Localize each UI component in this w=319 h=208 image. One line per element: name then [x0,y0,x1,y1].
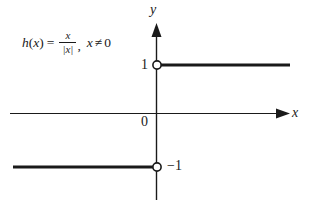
formula-numerator: x [63,30,72,42]
formula-fraction: x |x| [59,30,76,55]
not-equal-icon: ≠ [95,35,102,50]
y-tick-label-negative-one: −1 [167,159,182,173]
formula-equals-sign: = [47,35,55,51]
formula-paren-close: ) [39,35,44,51]
x-axis-label: x [292,106,298,120]
y-tick-label-one: 1 [141,58,148,72]
y-axis-arrowhead [152,23,162,37]
function-graph-figure: y x 0 1 −1 h(x) = x |x| , x≠0 [0,0,319,208]
y-axis [152,23,162,200]
function-formula: h(x) = x |x| , x≠0 [22,30,111,55]
formula-function-name: h [22,35,29,51]
condition-value: 0 [104,35,111,50]
formula-comma: , [77,38,80,55]
formula-domain-condition: x≠0 [87,35,111,51]
origin-label: 0 [141,115,148,129]
open-circle-at-negative-one [153,163,161,171]
y-axis-label: y [150,3,156,17]
condition-variable: x [87,35,93,50]
x-axis-arrowhead [276,109,290,119]
x-axis [10,109,290,119]
formula-denominator: |x| [60,43,75,55]
open-circle-at-positive-one [153,61,161,69]
